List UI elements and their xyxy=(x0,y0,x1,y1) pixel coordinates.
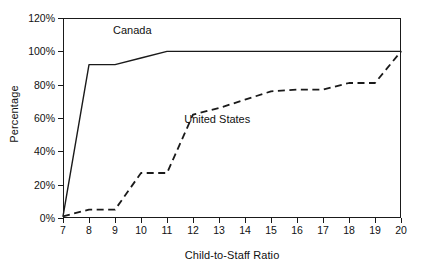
x-axis-tick-mark xyxy=(375,218,376,223)
x-axis-tick-mark xyxy=(245,218,246,223)
x-axis-tick-mark xyxy=(115,218,116,223)
x-axis-tick-label: 20 xyxy=(386,224,416,236)
x-axis-tick-mark xyxy=(271,218,272,223)
x-axis-title: Child-to-Staff Ratio xyxy=(63,249,401,261)
x-axis-tick-mark xyxy=(89,218,90,223)
y-axis-tick-label: 120% xyxy=(7,12,55,24)
y-axis-tick-label: 100% xyxy=(7,45,55,57)
x-axis-tick-mark xyxy=(167,218,168,223)
y-axis-tick-label: 80% xyxy=(7,79,55,91)
y-axis-tick-label: 40% xyxy=(7,145,55,157)
y-axis-tick-label: 60% xyxy=(7,112,55,124)
series-label-united-states: United States xyxy=(184,113,250,125)
x-axis-tick-mark xyxy=(63,218,64,223)
x-axis-tick-mark xyxy=(297,218,298,223)
x-axis-tick-mark xyxy=(193,218,194,223)
x-axis-tick-mark xyxy=(401,218,402,223)
x-axis-tick-mark xyxy=(323,218,324,223)
x-axis-tick-mark xyxy=(349,218,350,223)
x-axis-tick-mark xyxy=(141,218,142,223)
chart-container: Percentage 0%20%40%60%80%100%120% 789101… xyxy=(0,0,421,275)
y-axis-tick-label: 0% xyxy=(7,212,55,224)
series-label-canada: Canada xyxy=(113,24,152,36)
y-axis-tick-label: 20% xyxy=(7,179,55,191)
x-axis-tick-mark xyxy=(219,218,220,223)
